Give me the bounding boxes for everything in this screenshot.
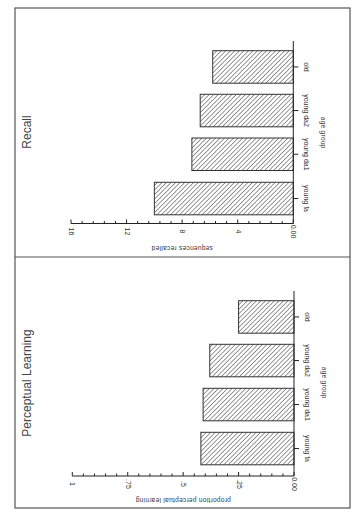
figure-frame: [15, 8, 350, 508]
category-label: young fa: [303, 435, 311, 462]
figure: Recallyoung fayoung da1young da2oldage g…: [0, 0, 361, 523]
value-tick-label: 0.00: [291, 477, 298, 491]
value-tick-label: 12: [124, 228, 131, 236]
value-tick-label: 16: [68, 228, 75, 236]
bar-young-da1: [203, 388, 294, 421]
bar-young-da2: [200, 94, 293, 127]
category-label: young da1: [303, 388, 311, 421]
bar-old: [213, 51, 294, 83]
bar-young-fa: [154, 182, 293, 215]
value-axis-title: proportion perceptual learning: [135, 496, 230, 504]
value-tick-label: 8: [179, 230, 186, 234]
value-tick-label: 0.00: [290, 225, 297, 239]
category-label: young da2: [302, 94, 310, 127]
value-tick-label: .75: [125, 479, 132, 489]
value-axis-title: sequences recalled: [151, 244, 212, 252]
category-label: young da2: [303, 344, 311, 377]
chart-canvas: Recallyoung fayoung da1young da2oldage g…: [0, 0, 361, 523]
value-tick-label: .5: [180, 481, 187, 487]
perceptual-learning-panel: Perceptual Learningyoung fayoung da1youn…: [20, 291, 328, 504]
category-axis-title: age group: [320, 367, 328, 399]
bar-young-fa: [201, 432, 294, 465]
category-axis-title: age group: [319, 117, 327, 149]
recall-panel: Recallyoung fayoung da1young da2oldage g…: [20, 41, 327, 252]
category-label: old: [303, 62, 310, 71]
chart-title: Perceptual Learning: [20, 329, 34, 436]
category-label: young fa: [302, 185, 310, 212]
value-tick-label: 4: [235, 230, 242, 234]
category-label: young da1: [302, 138, 310, 171]
bar-young-da1: [192, 138, 293, 171]
bar-old: [239, 301, 294, 334]
bar-young-da2: [210, 344, 294, 377]
value-tick-label: .25: [236, 479, 243, 489]
value-tick-label: 1: [69, 482, 76, 486]
category-label: old: [304, 312, 311, 321]
chart-title: Recall: [20, 115, 34, 148]
